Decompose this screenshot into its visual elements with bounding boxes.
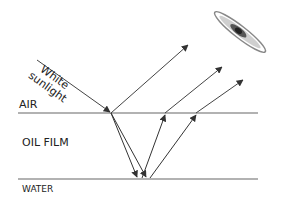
emerging-ray-1-arrow [165, 67, 222, 113]
thin-film-diagram [0, 0, 285, 199]
internal-reflected-ray-2-arrow [150, 115, 196, 178]
internal-reflected-ray-1-arrow [142, 115, 165, 178]
oil-film-label: OIL FILM [22, 136, 69, 149]
water-label: WATER [22, 184, 53, 194]
air-label: AIR [19, 98, 37, 111]
refracted-ray-down-1-arrow [111, 113, 137, 177]
eye-icon [211, 8, 269, 57]
refracted-ray-down-2-arrow [111, 113, 146, 177]
reflected-ray-arrow [111, 45, 188, 113]
emerging-ray-2-arrow [196, 80, 243, 113]
